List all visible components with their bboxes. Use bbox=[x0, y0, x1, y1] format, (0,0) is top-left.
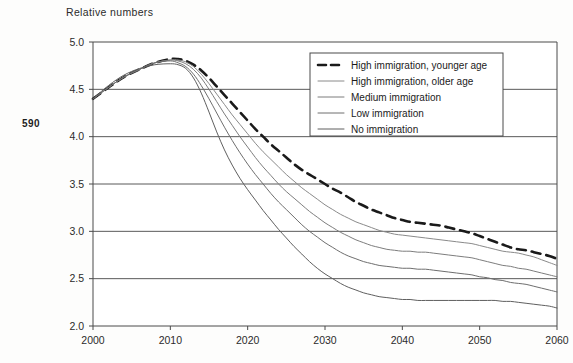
x-tick-label: 2060 bbox=[545, 334, 569, 346]
legend-label: No immigration bbox=[351, 124, 418, 135]
x-tick-label: 2040 bbox=[391, 334, 415, 346]
chart-legend[interactable]: High immigration, younger ageHigh immigr… bbox=[310, 53, 503, 136]
legend-label: High immigration, younger age bbox=[351, 60, 488, 71]
line-chart: 5.04.54.03.53.02.52.0 200020102020203020… bbox=[0, 0, 573, 363]
x-tick-label: 2030 bbox=[313, 334, 337, 346]
legend-label: Medium immigration bbox=[351, 92, 441, 103]
y-tick-label: 2.5 bbox=[69, 272, 84, 284]
x-tick-labels: 2000201020202030204020502060 bbox=[81, 334, 569, 346]
y-tick-marks bbox=[89, 42, 93, 326]
y-tick-label: 2.0 bbox=[69, 320, 84, 332]
x-tick-marks bbox=[93, 326, 557, 330]
legend-label: High immigration, older age bbox=[351, 76, 474, 87]
y-tick-labels: 5.04.54.03.53.02.52.0 bbox=[69, 36, 84, 332]
legend-label: Low immigration bbox=[351, 108, 424, 119]
chart-page: 590 Relative numbers 5.04.54.03.53.02.52… bbox=[0, 0, 573, 363]
y-tick-label: 3.5 bbox=[69, 178, 84, 190]
x-tick-label: 2050 bbox=[468, 334, 492, 346]
y-tick-label: 4.5 bbox=[69, 83, 84, 95]
x-tick-label: 2000 bbox=[81, 334, 105, 346]
y-tick-label: 3.0 bbox=[69, 225, 84, 237]
y-tick-label: 5.0 bbox=[69, 36, 84, 48]
x-tick-label: 2020 bbox=[236, 334, 260, 346]
y-tick-label: 4.0 bbox=[69, 130, 84, 142]
x-tick-label: 2010 bbox=[159, 334, 183, 346]
